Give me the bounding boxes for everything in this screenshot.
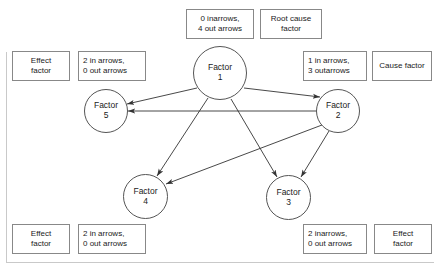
node-factor-5[interactable]: Factor 5 bbox=[84, 89, 128, 133]
annotation-factor1-classification-line2: factor bbox=[281, 24, 301, 34]
edge-factor1-to-factor4 bbox=[157, 98, 208, 176]
annotation-factor4-classification: Effect factor bbox=[12, 224, 70, 254]
node-factor-4-label-line2: 4 bbox=[143, 197, 148, 207]
annotation-factor1-classification-line1: Root cause bbox=[271, 14, 311, 24]
annotation-factor4-classification-line1: Effect bbox=[31, 229, 51, 239]
node-factor-1[interactable]: Factor 1 bbox=[193, 46, 247, 100]
annotation-factor5-arrow-counts-line2: 0 out arrows bbox=[83, 66, 127, 76]
annotation-factor4-arrow-counts: 2 in arrows, 0 out arrows bbox=[78, 224, 146, 254]
annotation-factor3-arrow-counts: 2 inarrows, 0 out arrows bbox=[303, 224, 367, 254]
node-factor-2[interactable]: Factor 2 bbox=[316, 89, 360, 133]
annotation-factor2-classification-line1: Cause factor bbox=[379, 61, 424, 71]
annotation-factor1-arrow-counts-line1: 0 inarrows, bbox=[200, 14, 239, 24]
node-factor-3[interactable]: Factor 3 bbox=[266, 175, 311, 220]
node-factor-4[interactable]: Factor 4 bbox=[123, 174, 168, 219]
annotation-factor1-arrow-counts-line2: 4 out arrows bbox=[198, 24, 242, 34]
annotation-factor4-arrow-counts-line2: 0 out arrows bbox=[83, 239, 127, 249]
node-factor-5-label-line2: 5 bbox=[104, 111, 109, 121]
annotation-factor3-arrow-counts-line2: 0 out arrows bbox=[308, 239, 352, 249]
node-factor-2-label-line2: 2 bbox=[336, 111, 341, 121]
annotation-factor4-classification-line2: factor bbox=[31, 239, 51, 249]
edge-factor1-to-factor2 bbox=[244, 88, 320, 97]
annotation-factor3-classification: Effect factor bbox=[374, 224, 432, 254]
node-factor-3-label-line2: 3 bbox=[286, 198, 291, 208]
annotation-factor3-arrow-counts-line1: 2 inarrows, bbox=[308, 229, 347, 239]
annotation-factor5-arrow-counts: 2 in arrows, 0 out arrows bbox=[78, 51, 146, 81]
annotation-factor1-arrow-counts: 0 inarrows, 4 out arrows bbox=[186, 9, 254, 39]
annotation-factor3-classification-line1: Effect bbox=[393, 229, 413, 239]
annotation-factor4-arrow-counts-line1: 2 in arrows, bbox=[83, 229, 124, 239]
annotation-factor2-arrow-counts: 1 in arrows, 3 outarrows bbox=[303, 51, 367, 81]
annotation-factor2-arrow-counts-line1: 1 in arrows, bbox=[308, 56, 349, 66]
edge-factor2-to-factor4 bbox=[166, 125, 322, 184]
annotation-factor5-classification-line1: Effect bbox=[31, 56, 51, 66]
annotation-factor2-classification: Cause factor bbox=[372, 51, 432, 81]
edge-factor1-to-factor5 bbox=[127, 88, 197, 104]
diagram-canvas: Factor 1 Factor 5 Factor 2 Factor 4 Fact… bbox=[0, 0, 441, 270]
annotation-factor5-classification: Effect factor bbox=[12, 51, 70, 81]
annotation-factor5-arrow-counts-line1: 2 in arrows, bbox=[83, 56, 124, 66]
annotation-factor3-classification-line2: factor bbox=[393, 239, 413, 249]
annotation-factor2-arrow-counts-line2: 3 outarrows bbox=[308, 66, 350, 76]
node-factor-1-label-line2: 1 bbox=[218, 73, 223, 83]
edge-factor2-to-factor3 bbox=[301, 131, 329, 177]
annotation-factor5-classification-line2: factor bbox=[31, 66, 51, 76]
annotation-factor1-classification: Root cause factor bbox=[260, 9, 322, 39]
